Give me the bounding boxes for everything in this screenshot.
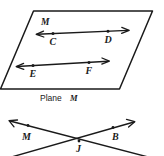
plane-m-group: C D E F M P [1,11,153,103]
point-j-dot [78,140,81,143]
point-b-dot [112,126,115,129]
plane-parallelogram [1,11,153,89]
geometry-figure: C D E F M P [0,0,164,156]
label-m: M [21,131,32,142]
plane-caption-prefix: Plane [40,93,62,103]
point-d-label: D [104,34,112,45]
figure-canvas: C D E F M P [0,0,164,156]
label-j: J [75,143,82,154]
line-cd-segment [37,30,128,34]
line-ef-segment [17,61,108,66]
label-b: B [111,131,119,142]
plane-caption: Plane M [40,93,78,103]
point-f-dot [88,61,91,64]
point-m-dot [27,124,30,127]
point-c-label: C [50,36,57,47]
point-e-label: E [29,68,37,79]
point-d-dot [107,30,110,33]
line-mj-left-arrowhead [9,120,18,127]
point-f-label: F [85,65,93,76]
intersecting-lines-group: M B J [8,119,152,156]
plane-label: M [40,17,50,27]
line-cd-group: C D [36,27,129,46]
plane-caption-label: M [69,93,78,103]
line-ef-group: E F [16,58,109,79]
